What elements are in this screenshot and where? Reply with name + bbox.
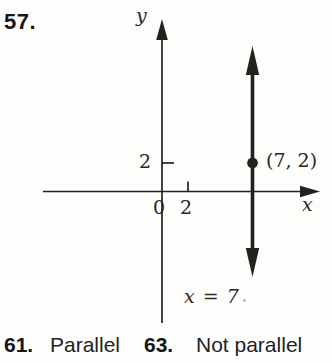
y-axis-label: y — [136, 4, 147, 26]
answer-61-text: Parallel — [50, 333, 120, 357]
y-tick-label-2: 2 — [139, 150, 151, 172]
origin-label: 0 — [153, 196, 165, 218]
answer-63-number: 63. — [144, 333, 173, 357]
vertical-line-top-arrowhead-icon — [246, 46, 259, 75]
line-equation-label: x = 7 — [184, 285, 240, 307]
textbook-figure-page: 57. y x 0 2 2 (7, 2) x = 7 61. Parallel … — [0, 0, 332, 363]
scan-artifact-dot — [243, 299, 246, 302]
x-tick-label-2: 2 — [180, 196, 192, 218]
answer-61-number: 61. — [4, 333, 33, 357]
plotted-point-7-2 — [247, 158, 258, 169]
answer-63-text: Not parallel — [196, 333, 302, 357]
vertical-line-bottom-arrowhead-icon — [246, 248, 259, 277]
point-coordinates-label: (7, 2) — [266, 149, 317, 171]
answers-row: 61. Parallel 63. Not parallel — [0, 333, 332, 361]
x-axis-label: x — [302, 193, 313, 215]
y-axis-arrowhead-icon — [156, 19, 168, 40]
coordinate-plane-svg — [0, 0, 332, 363]
